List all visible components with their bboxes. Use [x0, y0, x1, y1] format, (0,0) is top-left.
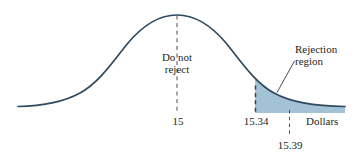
tick-label-mean: 15: [167, 116, 189, 128]
rejection-region-label: Rejection region: [295, 44, 357, 67]
normal-curve-figure: [0, 0, 357, 160]
x-axis-title: Dollars: [306, 116, 356, 128]
do-not-reject-label: Do not reject: [141, 52, 213, 75]
tick-label-test-statistic: 15.39: [270, 140, 310, 152]
tick-label-critical-value: 15.34: [236, 116, 276, 128]
rejection-region-leader-line: [277, 61, 295, 93]
